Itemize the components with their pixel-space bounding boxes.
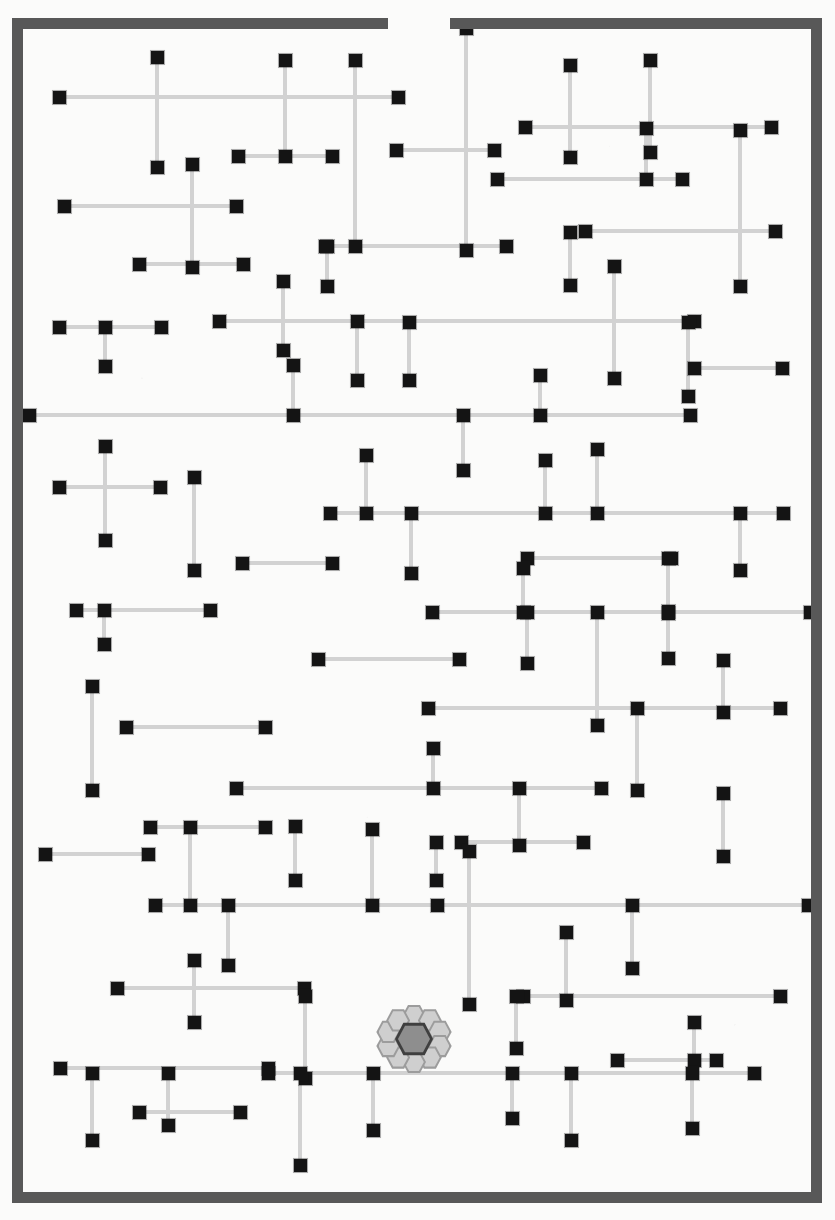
segment-endpoint-node bbox=[144, 821, 157, 834]
segment-endpoint-node bbox=[579, 225, 592, 238]
segment bbox=[738, 130, 742, 286]
segment-endpoint-node bbox=[631, 702, 644, 715]
segment-endpoint-node bbox=[351, 315, 364, 328]
segment-endpoint-node bbox=[591, 606, 604, 619]
segment-endpoint-node bbox=[230, 200, 243, 213]
segment-endpoint-node bbox=[86, 680, 99, 693]
segment-endpoint-node bbox=[565, 1134, 578, 1147]
segment bbox=[617, 1058, 716, 1062]
segment-endpoint-node bbox=[774, 990, 787, 1003]
wall-top-left bbox=[12, 18, 388, 29]
segment-endpoint-node bbox=[564, 226, 577, 239]
segment-endpoint-node bbox=[500, 240, 513, 253]
segment-endpoint-node bbox=[717, 706, 730, 719]
segment-endpoint-node bbox=[133, 1106, 146, 1119]
segment bbox=[192, 960, 196, 1022]
segment-endpoint-node bbox=[608, 372, 621, 385]
segment bbox=[226, 905, 230, 965]
segment-endpoint-node bbox=[626, 962, 639, 975]
segment-endpoint-node bbox=[506, 1112, 519, 1125]
segment-endpoint-node bbox=[289, 820, 302, 833]
segment bbox=[514, 996, 518, 1048]
segment-endpoint-node bbox=[776, 362, 789, 375]
segment-endpoint-node bbox=[510, 1042, 523, 1055]
segment-endpoint-node bbox=[98, 604, 111, 617]
segment-endpoint-node bbox=[86, 1134, 99, 1147]
segment-endpoint-node bbox=[717, 787, 730, 800]
segment-endpoint-node bbox=[644, 146, 657, 159]
segment bbox=[364, 455, 368, 513]
segment-endpoint-node bbox=[717, 654, 730, 667]
segment-endpoint-node bbox=[457, 464, 470, 477]
segment-endpoint-node bbox=[534, 409, 547, 422]
segment bbox=[330, 511, 783, 515]
wall-right bbox=[811, 18, 822, 1203]
segment bbox=[525, 612, 529, 663]
segment-endpoint-node bbox=[186, 158, 199, 171]
segment bbox=[396, 148, 494, 152]
segment-endpoint-node bbox=[453, 653, 466, 666]
segment-endpoint-node bbox=[299, 990, 312, 1003]
segment-endpoint-node bbox=[734, 564, 747, 577]
segment-endpoint-node bbox=[513, 839, 526, 852]
segment-endpoint-node bbox=[608, 260, 621, 273]
segment-endpoint-node bbox=[349, 240, 362, 253]
segment-endpoint-node bbox=[734, 280, 747, 293]
segment-endpoint-node bbox=[149, 899, 162, 912]
segment-endpoint-node bbox=[631, 784, 644, 797]
segment-endpoint-node bbox=[506, 1067, 519, 1080]
segment bbox=[371, 1073, 375, 1130]
segment-endpoint-node bbox=[560, 926, 573, 939]
segment-endpoint-node bbox=[734, 124, 747, 137]
segment bbox=[90, 1073, 94, 1140]
segment bbox=[543, 460, 547, 513]
segment bbox=[355, 321, 359, 380]
segment bbox=[585, 229, 775, 233]
segment bbox=[738, 513, 742, 570]
segment-endpoint-node bbox=[99, 321, 112, 334]
segment-endpoint-node bbox=[279, 150, 292, 163]
segment bbox=[190, 164, 194, 267]
segment-endpoint-node bbox=[682, 316, 695, 329]
segment bbox=[409, 513, 413, 573]
segment bbox=[432, 610, 810, 614]
segment-endpoint-node bbox=[230, 782, 243, 795]
segment-endpoint-node bbox=[39, 848, 52, 861]
segment-endpoint-node bbox=[287, 359, 300, 372]
segment-endpoint-node bbox=[682, 390, 695, 403]
segment-endpoint-node bbox=[717, 850, 730, 863]
segment bbox=[76, 608, 210, 612]
segment-endpoint-node bbox=[710, 1054, 723, 1067]
segment bbox=[166, 1073, 170, 1125]
segment-endpoint-node bbox=[277, 344, 290, 357]
segment-endpoint-node bbox=[640, 122, 653, 135]
segment-endpoint-node bbox=[237, 258, 250, 271]
segment-endpoint-node bbox=[54, 1062, 67, 1075]
segment-endpoint-node bbox=[188, 954, 201, 967]
segment-endpoint-node bbox=[640, 173, 653, 186]
segment-endpoint-node bbox=[626, 899, 639, 912]
segment-endpoint-node bbox=[188, 1016, 201, 1029]
segment-endpoint-node bbox=[431, 899, 444, 912]
segment bbox=[298, 1073, 302, 1165]
segment-endpoint-node bbox=[460, 244, 473, 257]
segment bbox=[461, 415, 465, 470]
segment-endpoint-node bbox=[289, 874, 302, 887]
segment-endpoint-node bbox=[519, 121, 532, 134]
segment-endpoint-node bbox=[53, 321, 66, 334]
segment bbox=[694, 366, 782, 370]
segment-endpoint-node bbox=[294, 1159, 307, 1172]
segment-endpoint-node bbox=[734, 507, 747, 520]
segment-endpoint-node bbox=[120, 721, 133, 734]
segment bbox=[126, 725, 265, 729]
segment-endpoint-node bbox=[539, 507, 552, 520]
segment-endpoint-node bbox=[769, 225, 782, 238]
segment-endpoint-node bbox=[188, 471, 201, 484]
segment-endpoint-node bbox=[513, 782, 526, 795]
segment-endpoint-node bbox=[262, 1067, 275, 1080]
segment-endpoint-node bbox=[99, 360, 112, 373]
wall-top-right bbox=[450, 18, 822, 29]
segment-endpoint-node bbox=[279, 54, 292, 67]
segment bbox=[721, 660, 725, 712]
segment-endpoint-node bbox=[403, 374, 416, 387]
